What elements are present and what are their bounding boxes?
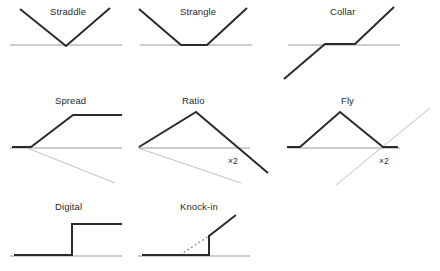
panel-knock-in: Knock-in [0,0,290,271]
knock-in-payoff [142,215,236,255]
fly-multiplier-label: ×2 [379,156,389,166]
option-payoff-figure: Straddle Strangle Collar Spread Ratio × [0,0,440,271]
knock-in-label: Knock-in [180,201,218,212]
knock-in-dashed-leg [180,236,209,255]
fly-payoff [287,112,398,147]
fly-label: Fly [341,95,354,106]
knock-in-chart [0,0,290,271]
